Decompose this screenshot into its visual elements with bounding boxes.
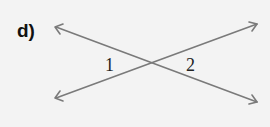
figure-panel: d) 1 2 [0,0,270,127]
angle-1-label: 1 [105,55,114,75]
line-b [56,24,257,98]
line-a [56,27,257,102]
intersecting-lines-diagram: 1 2 [0,0,270,127]
angle-2-label: 2 [186,55,195,75]
